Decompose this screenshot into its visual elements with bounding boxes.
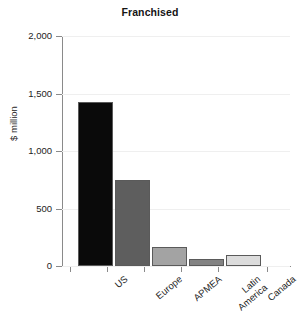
x-tick-label-apmea: APMEA [192,274,224,303]
gridline [62,94,290,95]
plot-area [62,36,290,266]
bar-chart: Franchised $ million 05001,0001,5002,000… [0,0,300,314]
x-tick-mark [107,267,108,272]
y-tick-mark [56,36,62,37]
x-tick-mark [70,267,71,272]
y-tick-label: 1,000 [0,146,52,156]
bar-apmea[interactable] [152,247,187,266]
y-tick-mark [56,209,62,210]
y-tick-label: 0 [0,261,52,271]
x-tick-label-canada: Canada [266,274,298,303]
x-tick-label-europe: Europe [154,274,184,302]
bar-europe[interactable] [115,180,150,266]
x-tick-mark [267,267,268,272]
bar-canada[interactable] [226,255,261,266]
y-tick-mark [56,151,62,152]
y-tick-label: 2,000 [0,31,52,41]
x-tick-mark [181,267,182,272]
x-tick-mark [218,267,219,272]
x-tick-label-us: US [113,274,130,291]
y-tick-label: 500 [0,204,52,214]
y-tick-label: 1,500 [0,89,52,99]
bar-us[interactable] [78,102,113,266]
gridline [62,266,290,267]
y-tick-mark [56,266,62,267]
bar-latin-america[interactable] [189,259,224,266]
y-tick-mark [56,94,62,95]
chart-title: Franchised [0,6,300,18]
x-tick-mark [144,267,145,272]
gridline [62,36,290,37]
x-tick-label-latin-america: LatinAmerica [229,274,269,312]
